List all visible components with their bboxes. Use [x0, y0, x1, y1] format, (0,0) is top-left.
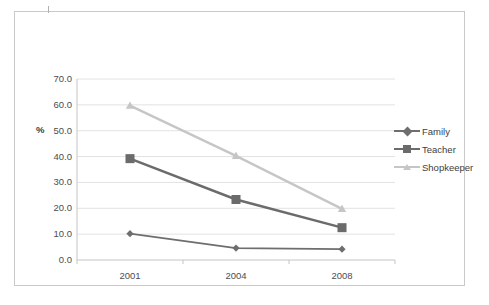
x-axis-tick-label: 2001	[108, 270, 152, 281]
gridlines-group	[77, 79, 395, 260]
y-axis-tick-label: 40.0	[38, 151, 72, 162]
data-point-family-2001[interactable]	[126, 230, 133, 237]
series-lines-group	[130, 106, 342, 250]
square-marker-icon	[403, 145, 411, 153]
y-axis-tick-label: 60.0	[38, 99, 72, 110]
y-axis-tick-label: 0.0	[38, 254, 72, 265]
legend-label-teacher: Teacher	[422, 144, 456, 155]
legend-key-teacher-icon	[394, 142, 420, 156]
legend-key-family-icon	[394, 124, 420, 138]
series-markers-group	[126, 101, 347, 252]
y-axis-tick-label: 10.0	[38, 228, 72, 239]
x-axis-tick-label: 2008	[320, 270, 364, 281]
data-point-teacher-2001[interactable]	[126, 154, 135, 163]
data-point-teacher-2004[interactable]	[232, 195, 241, 204]
data-point-family-2008[interactable]	[338, 246, 345, 253]
triangle-marker-icon	[403, 164, 411, 170]
chart-legend: Family Teacher Shopkeeper	[394, 122, 486, 176]
legend-item-shopkeeper[interactable]: Shopkeeper	[394, 158, 486, 176]
legend-item-family[interactable]: Family	[394, 122, 486, 140]
y-axis-title: %	[36, 124, 44, 135]
y-axis-tick-label: 70.0	[38, 73, 72, 84]
legend-key-shopkeeper-icon	[394, 160, 420, 174]
y-axis-tick-label: 20.0	[38, 202, 72, 213]
legend-label-family: Family	[422, 126, 450, 137]
x-axis-tick-label: 2004	[214, 270, 258, 281]
x-axis-tick-marks	[77, 260, 395, 264]
data-point-family-2004[interactable]	[232, 245, 239, 252]
y-axis-tick-label: 30.0	[38, 176, 72, 187]
legend-label-shopkeeper: Shopkeeper	[422, 162, 473, 173]
diamond-marker-icon	[402, 126, 412, 136]
legend-item-teacher[interactable]: Teacher	[394, 140, 486, 158]
data-point-teacher-2008[interactable]	[338, 223, 347, 232]
